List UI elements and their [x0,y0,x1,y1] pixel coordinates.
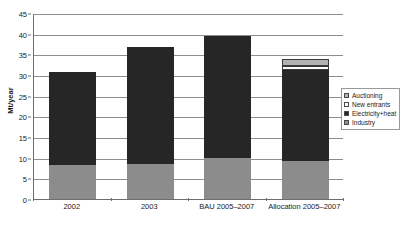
bar-segment[interactable] [282,70,329,161]
legend-swatch-icon [344,111,349,116]
bar-stack[interactable] [282,59,329,199]
y-axis-tick-label: 40 [19,30,27,39]
x-axis-tick-label: Allocation 2005–2007 [268,202,340,211]
y-axis-tick-label: 45 [19,10,27,19]
chart-legend: AuctioningNew entrantsElectricity+heatIn… [341,88,400,130]
y-axis-tick-labels: 051015202530354045 [0,14,31,200]
plot-area [33,14,343,200]
x-axis-tick-mark [33,198,34,201]
bar-segment[interactable] [127,47,174,164]
y-axis-tick-label: 0 [23,196,27,205]
stacked-bar-chart: Mt/year 051015202530354045 20022003BAU 2… [0,0,411,232]
y-axis-tick-mark [28,117,31,118]
y-axis-tick-label: 25 [19,92,27,101]
legend-swatch-icon [344,102,349,107]
y-axis-tick-label: 5 [23,175,27,184]
legend-item[interactable]: Industry [344,118,396,127]
bar-stack[interactable] [49,72,96,199]
x-axis-tick-mark [188,198,189,201]
y-axis-tick-mark [28,200,31,201]
legend-item[interactable]: Electricity+heat [344,109,396,118]
y-axis-tick-mark [28,96,31,97]
x-axis-tick-mark [266,198,267,201]
x-axis-tick-mark [111,198,112,201]
bar-segment[interactable] [49,165,96,199]
y-axis-tick-label: 10 [19,154,27,163]
x-axis-tick-label: 2003 [141,202,158,211]
y-axis-tick-mark [28,179,31,180]
bar-segment[interactable] [127,164,174,199]
bar-segment[interactable] [204,36,251,158]
bars-layer [34,14,343,199]
legend-item-label: Electricity+heat [352,109,396,118]
legend-item-label: New entrants [352,100,390,109]
x-axis-tick-labels: 20022003BAU 2005–2007Allocation 2005–200… [33,202,343,222]
y-axis-tick-mark [28,138,31,139]
bar-segment[interactable] [282,161,329,199]
y-axis-tick-mark [28,34,31,35]
bar-stack[interactable] [127,47,174,199]
legend-swatch-icon [344,120,349,125]
y-axis-tick-label: 20 [19,113,27,122]
y-axis-tick-mark [28,55,31,56]
y-axis-tick-label: 30 [19,72,27,81]
legend-item-label: Industry [352,118,375,127]
bar-stack[interactable] [204,36,251,199]
bar-segment[interactable] [49,72,96,165]
y-axis-tick-label: 15 [19,134,27,143]
x-axis-tick-label: BAU 2005–2007 [199,202,254,211]
bar-segment[interactable] [204,158,251,199]
x-axis-tick-label: 2002 [63,202,80,211]
y-axis-tick-mark [28,158,31,159]
legend-swatch-icon [344,93,349,98]
x-axis-tick-mark [343,198,344,201]
legend-item-label: Auctioning [352,91,382,100]
legend-item[interactable]: Auctioning [344,91,396,100]
y-axis-tick-mark [28,76,31,77]
y-axis-tick-label: 35 [19,51,27,60]
legend-item[interactable]: New entrants [344,100,396,109]
y-axis-tick-mark [28,14,31,15]
